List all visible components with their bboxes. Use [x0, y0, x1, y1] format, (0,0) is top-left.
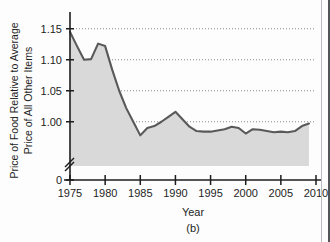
xtick-label-2000: 2000 — [233, 187, 257, 199]
y-axis-title-line-1: Price of Food Relative to Average — [8, 22, 20, 178]
panel-caption: (b) — [186, 222, 199, 234]
x-axis-title: Year — [182, 206, 205, 218]
relative-food-price-chart: 1.001.051.101.15019751980198519901995200… — [0, 0, 330, 242]
ytick-label-1.15: 1.15 — [41, 23, 62, 35]
xtick-label-1985: 1985 — [128, 187, 152, 199]
page-edge-rule-light — [321, 0, 322, 242]
xtick-label-2010: 2010 — [304, 187, 328, 199]
xtick-label-1975: 1975 — [58, 187, 82, 199]
xtick-label-1980: 1980 — [93, 187, 117, 199]
ytick-label-1.00: 1.00 — [41, 116, 62, 128]
xtick-label-1990: 1990 — [163, 187, 187, 199]
xtick-label-2005: 2005 — [269, 187, 293, 199]
xtick-label-1995: 1995 — [198, 187, 222, 199]
y-axis-title-line-2: Price of All Other Items — [22, 47, 34, 154]
ytick-label-1.10: 1.10 — [41, 54, 62, 66]
ytick-label-zero: 0 — [56, 174, 62, 186]
ytick-label-1.05: 1.05 — [41, 85, 62, 97]
figure-panel-b: 1.001.051.101.15019751980198519901995200… — [0, 0, 330, 242]
